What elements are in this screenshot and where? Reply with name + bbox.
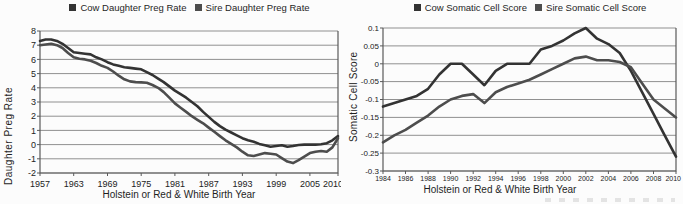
- preg-rate-plot: 876543210-1-2195719631969197519811987199…: [0, 0, 341, 204]
- x-tick-label: 1975: [131, 179, 151, 189]
- legend-item-cow-scs: Cow Somatic Cell Score: [414, 2, 527, 13]
- x-tick-label: 2004: [601, 175, 617, 182]
- daughter-preg-rate-chart: Cow Daughter Preg Rate Sire Daughter Pre…: [0, 0, 341, 204]
- x-tick-label: 1986: [398, 175, 414, 182]
- somatic-cell-plot: 0.10.050-0.05-0.1-0.15-0.2-0.25-0.319841…: [341, 0, 683, 204]
- legend-item-sire-scs: Sire Somatic Cell Score: [535, 2, 646, 13]
- legend-square-icon: [195, 4, 202, 11]
- y-tick-label: -0.05: [361, 77, 380, 86]
- y-tick-label: 0: [375, 60, 380, 69]
- x-tick-label: 1987: [199, 179, 219, 189]
- x-tick-label: 1993: [232, 179, 252, 189]
- x-axis-title: Holstein or Red & White Birth Year: [351, 184, 649, 195]
- y-tick-label: 0.05: [363, 42, 379, 51]
- legend-label: Cow Daughter Preg Rate: [80, 2, 186, 13]
- x-tick-label: 1981: [165, 179, 185, 189]
- x-tick-label: 1963: [64, 179, 84, 189]
- x-tick-label: 1984: [375, 175, 391, 182]
- x-tick-label: 2010: [323, 179, 341, 189]
- y-tick-label: 0.1: [368, 24, 380, 33]
- y-tick-label: 7: [31, 40, 36, 50]
- y-tick-label: -0.25: [361, 149, 380, 158]
- x-tick-label: 2005: [300, 179, 320, 189]
- x-tick-label: 2002: [578, 175, 594, 182]
- series-line-cow-somatic-cell-score: [383, 28, 676, 157]
- x-tick-label: 1998: [533, 175, 549, 182]
- x-axis-title: Holstein or Red & White Birth Year: [30, 189, 328, 200]
- y-tick-label: 6: [31, 55, 36, 65]
- x-tick-label: 2006: [623, 175, 639, 182]
- legend-square-icon: [535, 4, 542, 11]
- y-tick-label: -1: [28, 154, 36, 164]
- legend: Cow Somatic Cell Score Sire Somatic Cell…: [341, 2, 683, 13]
- y-tick-label: 2: [31, 111, 36, 121]
- y-tick-label: 4: [31, 83, 36, 93]
- y-tick-label: -2: [28, 168, 36, 178]
- legend-label: Sire Somatic Cell Score: [546, 2, 646, 13]
- y-tick-label: 3: [31, 97, 36, 107]
- y-tick-label: 0: [31, 140, 36, 150]
- x-tick-label: 1992: [465, 175, 481, 182]
- legend-label: Sire Daughter Preg Rate: [206, 2, 310, 13]
- x-tick-label: 1990: [443, 175, 459, 182]
- x-tick-label: 1988: [420, 175, 436, 182]
- y-tick-label: -0.1: [365, 95, 379, 104]
- scan-artifact: [545, 198, 675, 202]
- legend-square-icon: [414, 4, 421, 11]
- y-tick-label: 8: [31, 26, 36, 36]
- x-tick-label: 1999: [266, 179, 286, 189]
- x-tick-label: 2010: [665, 175, 681, 182]
- x-tick-label: 2008: [646, 175, 662, 182]
- y-tick-label: -0.15: [361, 113, 380, 122]
- legend-item-sire-dpr: Sire Daughter Preg Rate: [195, 2, 310, 13]
- legend: Cow Daughter Preg Rate Sire Daughter Pre…: [0, 2, 341, 13]
- x-tick-label: 1994: [488, 175, 504, 182]
- x-tick-label: 1957: [30, 179, 50, 189]
- somatic-cell-score-chart: Cow Somatic Cell Score Sire Somatic Cell…: [341, 0, 683, 204]
- y-tick-label: 5: [31, 69, 36, 79]
- legend-square-icon: [69, 4, 76, 11]
- x-tick-label: 1969: [97, 179, 117, 189]
- y-tick-label: -0.2: [365, 131, 379, 140]
- x-tick-label: 1996: [510, 175, 526, 182]
- y-tick-label: 1: [31, 126, 36, 136]
- legend-label: Cow Somatic Cell Score: [425, 2, 527, 13]
- legend-item-cow-dpr: Cow Daughter Preg Rate: [69, 2, 186, 13]
- x-tick-label: 2000: [556, 175, 572, 182]
- y-axis-title: Somatic Cell Score: [348, 52, 359, 142]
- genetic-trend-charts: Cow Daughter Preg Rate Sire Daughter Pre…: [0, 0, 683, 204]
- y-axis-title: Daughter Preg Rate: [3, 87, 14, 185]
